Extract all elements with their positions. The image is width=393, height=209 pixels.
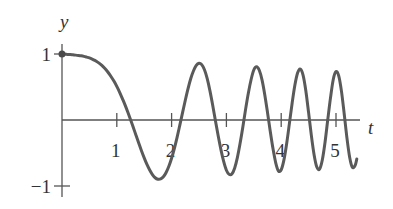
y-tick-label: 1 (42, 44, 52, 65)
y-tick-label: −1 (31, 176, 51, 197)
start-point-marker (59, 51, 66, 58)
x-axis-label: t (368, 117, 374, 138)
x-tick-label: 1 (111, 140, 121, 161)
series-line (62, 54, 357, 179)
y-axis-label: y (58, 11, 69, 32)
chart: y t 12345 1−1 (0, 0, 393, 209)
x-tick-label: 5 (330, 140, 340, 161)
